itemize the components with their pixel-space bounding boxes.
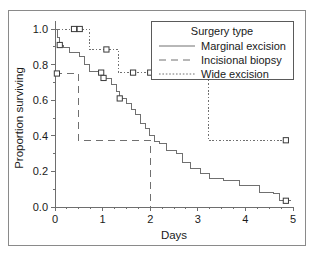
y-tick-label: 1.0 [33, 23, 48, 35]
censor-marker [130, 70, 135, 75]
x-axis-title: Days [161, 229, 187, 241]
legend-label-0: Marginal excision [201, 40, 286, 52]
y-tick-label: 0.0 [33, 201, 48, 213]
censor-marker [101, 75, 106, 80]
x-tick-label: 0 [52, 213, 58, 225]
censor-marker [77, 26, 82, 31]
censor-marker [57, 42, 62, 47]
y-axis-title: Proportion surviving [13, 67, 25, 169]
censor-marker [117, 96, 122, 101]
censor-marker [71, 26, 76, 31]
x-tick-label: 1 [100, 213, 106, 225]
legend-label-2: Wide excision [201, 68, 269, 80]
x-tick-label: 2 [147, 213, 153, 225]
censor-marker [283, 138, 288, 143]
x-tick-label: 4 [242, 213, 248, 225]
series-line-1 [55, 74, 150, 208]
y-tick-label: 0.6 [33, 94, 48, 106]
x-tick-label: 5 [290, 213, 296, 225]
censor-marker [283, 198, 288, 203]
y-tick-label: 0.2 [33, 165, 48, 177]
censor-marker [99, 70, 104, 75]
censor-marker [104, 47, 109, 52]
y-tick-label: 0.4 [33, 130, 48, 142]
y-tick-label: 0.8 [33, 59, 48, 71]
survival-chart: 0.00.20.40.60.81.0012345 Days Proportion… [9, 11, 305, 245]
censor-marker [54, 71, 59, 76]
x-tick-label: 3 [195, 213, 201, 225]
legend-title: Surgery type [191, 25, 253, 37]
figure-frame: 0.00.20.40.60.81.0012345 Days Proportion… [8, 10, 306, 246]
legend: Surgery typeMarginal excisionIncisional … [151, 21, 293, 80]
legend-label-1: Incisional biopsy [201, 54, 282, 66]
